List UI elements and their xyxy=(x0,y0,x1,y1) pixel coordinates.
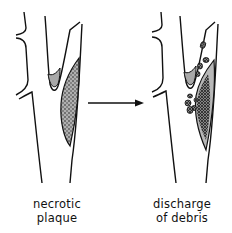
vessel-wall-left-branch xyxy=(16,38,28,95)
vessel-wall-upper-branch xyxy=(152,12,162,32)
caption-line: of debris xyxy=(144,211,220,225)
caption-line: discharge xyxy=(144,197,220,211)
vessel-wall-upper-branch xyxy=(16,12,26,35)
vessel-wall-left-trunk xyxy=(153,91,176,183)
right-vessel-diagram xyxy=(152,12,218,183)
transition-arrow xyxy=(88,100,144,107)
caption-line: plaque xyxy=(24,211,90,225)
vessel-wall-left-trunk xyxy=(19,92,42,183)
left-vessel-diagram xyxy=(16,12,82,183)
caption-line: necrotic xyxy=(24,197,90,211)
caption-discharge-of-debris: discharge of debris xyxy=(144,197,220,225)
necrotic-plaque xyxy=(61,58,79,146)
vessel-wall-left-branch xyxy=(152,37,163,92)
caption-necrotic-plaque: necrotic plaque xyxy=(24,197,90,225)
arrow-head-icon xyxy=(135,100,144,107)
